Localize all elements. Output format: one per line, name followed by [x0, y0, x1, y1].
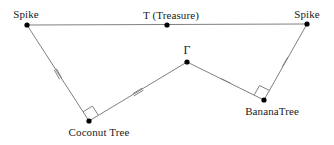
label-banana-tree: BananaTree	[245, 105, 299, 117]
right-angle-coconut-tree	[83, 106, 98, 115]
tick-mark-single-banana-spike	[282, 57, 287, 67]
vertex-point-treasure	[164, 22, 169, 27]
label-treasure: T (Treasure)	[143, 9, 199, 21]
label-gamma: Γ	[183, 44, 190, 56]
tick-marks-layer	[54, 57, 287, 96]
vertex-point-spike-right	[304, 21, 309, 26]
vertex-point-coconut-tree	[86, 118, 91, 123]
vertex-point-spike-left	[24, 22, 29, 27]
vertex-point-gamma	[184, 59, 189, 64]
label-coconut-tree: Coconut Tree	[69, 126, 130, 138]
right-angle-markers-layer	[83, 86, 269, 116]
tick-mark-double-coconut-gamma-stroke-1	[133, 88, 142, 94]
segment-spike-left-to-coconut	[27, 25, 89, 121]
tick-mark-double-spike-coconut-stroke-1	[56, 69, 61, 79]
segment-coconut-to-gamma	[89, 62, 187, 121]
vertex-point-banana-tree	[261, 97, 266, 102]
label-spike-left: Spike	[13, 8, 39, 20]
tick-mark-single-gamma-banana-stroke-1	[221, 79, 231, 84]
diagram-canvas	[0, 0, 334, 145]
treasure-geometry-diagram: SpikeT (Treasure)SpikeΓCoconut TreeBanan…	[0, 0, 334, 145]
label-spike-right: Spike	[294, 8, 320, 20]
tick-mark-single-banana-spike-stroke-1	[282, 57, 287, 67]
tick-mark-single-gamma-banana	[221, 79, 231, 84]
